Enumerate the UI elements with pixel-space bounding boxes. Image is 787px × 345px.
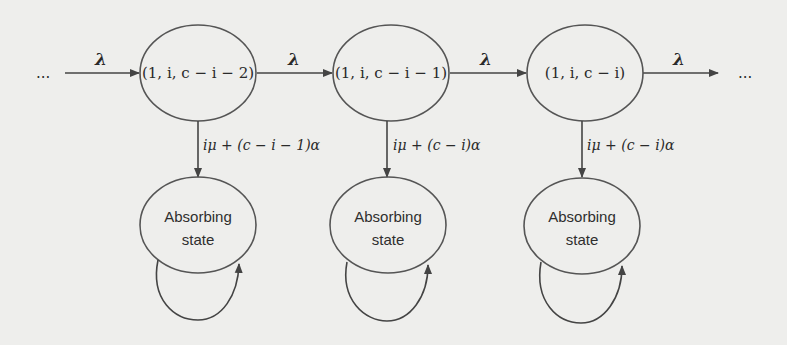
absorbing-label-line1: Absorbing [354, 208, 422, 225]
rate-label: iμ + (c − i)α [587, 137, 675, 153]
lambda-label: λ [287, 49, 300, 69]
self-loop-icon [346, 262, 428, 321]
edge-down-2: iμ + (c − i)α [387, 121, 481, 177]
absorbing-node-2: Absorbing state [330, 177, 446, 321]
absorbing-ellipse [140, 177, 256, 273]
edge-in-lambda: λ [65, 49, 139, 73]
trailing-ellipsis: ... [738, 64, 752, 82]
state-label: (1, i, c − i − 1) [335, 64, 447, 82]
leading-ellipsis: ... [36, 64, 50, 82]
state-node-3: (1, i, c − i) [527, 25, 643, 121]
edge-out-lambda: λ [643, 49, 718, 73]
markov-chain-diagram: ... λ λ λ λ ... (1, i, c − i − 2) (1, i, [0, 0, 787, 345]
edge-down-3: iμ + (c − i)α [582, 121, 675, 177]
absorbing-node-3: Absorbing state [524, 178, 640, 323]
state-node-1: (1, i, c − i − 2) [140, 25, 256, 121]
absorbing-ellipse [524, 178, 640, 274]
edge-1-2-lambda: λ [257, 49, 332, 73]
absorbing-node-1: Absorbing state [140, 177, 256, 320]
lambda-label: λ [94, 49, 107, 69]
self-loop-icon [540, 262, 622, 323]
rate-label: iμ + (c − i − 1)α [203, 137, 321, 153]
state-label: (1, i, c − i − 2) [142, 64, 254, 82]
lambda-label: λ [479, 49, 492, 69]
edge-down-1: iμ + (c − i − 1)α [198, 121, 321, 177]
rate-label: iμ + (c − i)α [393, 137, 481, 153]
state-node-2: (1, i, c − i − 1) [333, 25, 449, 121]
self-loop-icon [156, 260, 239, 320]
absorbing-label-line2: state [182, 231, 215, 248]
absorbing-ellipse [330, 177, 446, 273]
absorbing-label-line1: Absorbing [548, 208, 616, 225]
lambda-label: λ [672, 49, 685, 69]
absorbing-label-line2: state [372, 231, 405, 248]
absorbing-label-line1: Absorbing [164, 208, 232, 225]
state-label: (1, i, c − i) [545, 64, 625, 82]
absorbing-label-line2: state [566, 231, 599, 248]
edge-2-3-lambda: λ [450, 49, 526, 73]
